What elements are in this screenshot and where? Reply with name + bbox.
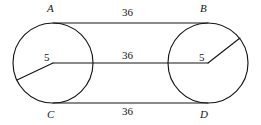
point-label-b: B [200,3,207,14]
geometry-figure: A B C D 5 5 36 36 36 [0,0,261,125]
middle-segment-length-label: 36 [122,50,133,61]
point-label-c: C [47,109,54,120]
point-label-d: D [200,109,208,120]
top-segment-length-label: 36 [122,7,133,18]
point-label-a: A [47,3,54,14]
right-radius-label: 5 [199,52,205,63]
bottom-segment-length-label: 36 [122,106,133,117]
left-radius-line [17,63,53,80]
right-radius-line [208,38,240,63]
left-radius-label: 5 [44,52,50,63]
